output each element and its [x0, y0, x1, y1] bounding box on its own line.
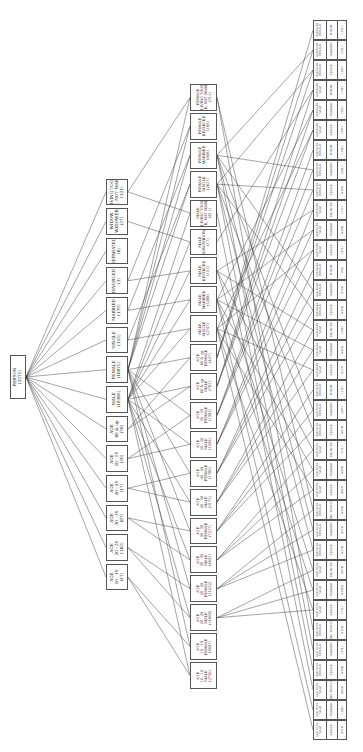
leaf-status: DIVORCED	[331, 323, 334, 338]
leaf-status: MARRIED	[331, 103, 334, 116]
node-label: AGE20 - 29(162)	[110, 540, 124, 555]
leaf-status: SINGLE	[331, 305, 334, 316]
node-label: AGE60 & up(76)	[110, 420, 124, 437]
leaf-count: (1870)	[337, 561, 347, 579]
leaf-count: (1870)	[342, 566, 345, 575]
leaf-count: (887)	[337, 401, 347, 419]
leaf-status: SINGLE	[331, 185, 334, 196]
edge-line	[128, 399, 190, 675]
edge-line	[217, 110, 313, 300]
edge-line	[217, 50, 313, 155]
leaf-status: WIDOW	[326, 21, 337, 39]
leaf-sex: MALE	[320, 723, 323, 737]
leaf-status: WIDOW	[326, 261, 337, 279]
leaf-count: (2713)	[337, 721, 347, 739]
leaf-label: AGE 20-29FEMALE	[317, 523, 323, 537]
edge-line	[128, 97, 190, 191]
leaf-count: (1271)	[342, 526, 345, 535]
leaf-count: (151)	[342, 27, 345, 34]
node-label-line: 60 & up	[199, 349, 203, 365]
edge-line	[26, 377, 106, 518]
leaf-label: SINGLE	[331, 665, 334, 676]
leaf-sex: FEMALE	[320, 663, 323, 677]
edge-line	[128, 577, 190, 646]
leaf-label: WIDOW	[331, 85, 334, 96]
leaf-label: MARRIED	[331, 643, 334, 656]
leaf-count: (887)	[342, 407, 345, 414]
leaf-label: AGE 40-49FEMALE	[317, 263, 323, 277]
node-leaf: AGE 50-59FEMALESINGLE(1161)	[313, 180, 347, 200]
edge-line	[217, 184, 313, 190]
node-label-line: (1382)	[208, 407, 212, 423]
leaf-sex: MALE	[320, 243, 323, 257]
node-label-line: 60 & up	[199, 379, 203, 394]
node-living: LIVING TOGETHER, NOT MARRIED(121)	[106, 179, 128, 206]
leaf-sex: MALE	[320, 483, 323, 497]
leaf-label: AGE 60-69MALE	[317, 123, 323, 137]
leaf-label: DIVORCED	[331, 323, 334, 338]
leaf-label: MARRIED	[331, 523, 334, 536]
leaf-label: (117)	[342, 207, 345, 214]
leaf-status: DIVORCED	[326, 321, 337, 339]
node-m4049: AGE40 - 49MALE(3175)	[190, 489, 217, 516]
edge-line	[128, 271, 190, 281]
edge-line	[128, 488, 190, 502]
node-label: AGE40 - 49FEMALE(1780)	[195, 465, 212, 481]
leaf-label: (1870)	[342, 566, 345, 575]
node-fmarried: FEMALEMARRIED(908)	[190, 142, 217, 169]
leaf-count: (1070)	[337, 421, 347, 439]
leaf-age-sex: AGE 10-19FEMALE	[314, 661, 326, 679]
leaf-label: (1085)	[342, 466, 345, 475]
edge-line	[128, 126, 190, 280]
leaf-status: MARRIED	[331, 643, 334, 656]
node-m3039: AGE30 - 39MALE(6035)	[190, 546, 217, 573]
leaf-label: (1070)	[342, 426, 345, 435]
leaf-status: MARRIED	[326, 161, 337, 179]
leaf-status: SINGLE	[331, 725, 334, 736]
leaf-sex: FEMALE	[320, 543, 323, 557]
leaf-count: (274)	[337, 641, 347, 659]
edge-line	[26, 377, 106, 548]
leaf-sex: FEMALE	[320, 623, 323, 637]
edge-line	[26, 251, 106, 377]
leaf-sex: FEMALE	[320, 143, 323, 157]
leaf-sex: MALE	[320, 203, 323, 217]
edge-line	[217, 610, 313, 618]
node-m1519: AGE10 - 19MALE(2730)	[190, 662, 217, 689]
node-leaf: AGE 50-59FEMALEWIDOW(149)	[313, 140, 347, 160]
node-label-line: (87)	[119, 511, 124, 526]
leaf-label: AGE 30-39MALE	[317, 483, 323, 497]
node-m5059: AGE50 - 59MALE(1209)	[190, 431, 217, 458]
leaf-age-sex: AGE 40-49FEMALE	[314, 301, 326, 319]
node-a5059: AGE50 - 59(30)	[106, 445, 128, 472]
node-label-line: AGE	[195, 638, 199, 654]
leaf-status: SINGLE	[331, 125, 334, 136]
edge-line	[217, 390, 313, 531]
edge-line	[217, 155, 313, 290]
node-a4049: AGE40 - 49(17)	[106, 475, 128, 502]
node-leaf: AGE 30-39MALESINGLE(3427)	[313, 480, 347, 500]
leaf-status: SINGLE	[326, 481, 337, 499]
leaf-age-sex: AGE 30-39FEMALE	[314, 421, 326, 439]
leaf-label: AGE 10-19FEMALE	[317, 643, 323, 657]
node-leaf: AGE 30-39MALEDIVORCED(511)	[313, 440, 347, 460]
node-label-line: DIVORCED	[201, 116, 205, 137]
leaf-count: (213)	[337, 381, 347, 399]
node-label-line: (785)	[208, 379, 212, 394]
leaf-label: AGE 10-19MALE	[317, 723, 323, 737]
node-label-line: (2657)	[206, 176, 210, 192]
leaf-count: (149)	[337, 141, 347, 159]
leaf-status: LIVING TOGE-THER	[326, 681, 337, 699]
leaf-label: AGE 10-19MALE	[317, 683, 323, 697]
node-label-line: FEMALE	[204, 465, 208, 481]
leaf-count: (841)	[342, 167, 345, 174]
leaf-count: (1177)	[342, 366, 345, 375]
edge-line	[128, 329, 190, 400]
leaf-age-sex: AGE 30-39MALE	[314, 441, 326, 459]
node-label-line: 30 - 39	[199, 523, 203, 539]
node-a60up: AGE60 & up(76)	[106, 416, 128, 443]
leaf-count: (231)	[337, 41, 347, 59]
leaf-status: MARRIED	[331, 43, 334, 56]
node-label-line: AGE	[195, 465, 199, 481]
node-label: LIVING TOGETHER, NOT MARRIED(121)	[110, 179, 124, 206]
